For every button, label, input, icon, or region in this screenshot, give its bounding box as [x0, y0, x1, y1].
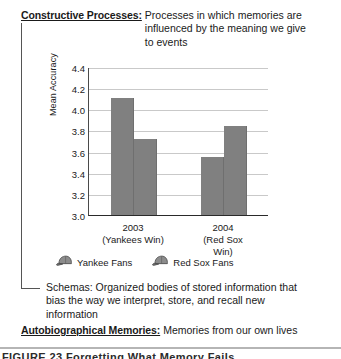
term-constructive-processes: Constructive Processes: [21, 9, 142, 22]
bar-chart: Mean Accuracy 4.44.24.03.83.63.43.23.0 2… [50, 64, 278, 279]
y-axis-tick: 3.2 [72, 189, 85, 200]
figure-page: Constructive Processes: Processes in whi… [0, 0, 341, 359]
legend-label: Red Sox Fans [173, 257, 233, 268]
definition-schemas: Schemas: Organized bodies of stored info… [46, 281, 336, 321]
gridline [89, 68, 268, 69]
definition-autobiographical-memories: Autobiographical Memories: Memories from… [21, 324, 336, 337]
baseball-cap-icon [152, 255, 170, 269]
y-axis-tick: 3.8 [72, 126, 85, 137]
y-axis-tick: 4.0 [72, 105, 85, 116]
x-axis-sublabel: (Yankees Win) [102, 234, 164, 246]
definition-text-schemas: Schemas: Organized bodies of stored info… [46, 281, 314, 321]
bar [134, 139, 157, 215]
y-axis-tick: 4.4 [72, 63, 85, 74]
definition-text-constructive-processes: Processes in which memories are influenc… [145, 9, 311, 49]
term-autobiographical-memories: Autobiographical Memories: [21, 324, 160, 337]
bar [201, 157, 224, 215]
y-axis-tick: 4.2 [72, 84, 85, 95]
x-axis-year: 2004 [196, 222, 251, 234]
legend-label: Yankee Fans [77, 257, 132, 268]
baseball-cap-icon [56, 255, 74, 269]
x-axis-group-label: 2004(Red Sox Win) [196, 222, 251, 258]
legend-item: Yankee Fans [56, 255, 132, 269]
chart-legend: Yankee FansRed Sox Fans [56, 255, 276, 269]
plot-area: 4.44.24.03.83.63.43.23.0 [88, 68, 268, 216]
footer-divider [0, 347, 341, 349]
x-axis-group-label: 2003(Yankees Win) [102, 222, 164, 246]
bar [224, 126, 247, 215]
y-axis-tick: 3.0 [72, 211, 85, 222]
y-axis-label: Mean Accuracy [48, 53, 58, 116]
bar [111, 98, 134, 215]
x-axis-year: 2003 [102, 222, 164, 234]
figure-caption: FIGURE 23 Forgetting What Memory Fails [2, 351, 341, 359]
y-axis-tick: 3.4 [72, 168, 85, 179]
definition-constructive-processes: Constructive Processes: Processes in whi… [21, 9, 333, 49]
legend-item: Red Sox Fans [152, 255, 233, 269]
bracket-connector [21, 23, 40, 289]
definition-text-autobiographical-memories: Memories from our own lives [163, 324, 297, 337]
y-axis-tick: 3.6 [72, 147, 85, 158]
gridline [89, 89, 268, 90]
